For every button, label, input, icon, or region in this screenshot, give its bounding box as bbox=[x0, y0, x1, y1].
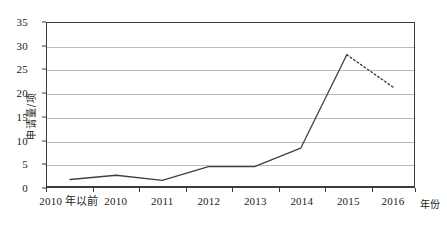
x-axis-title: 年份 bbox=[420, 196, 440, 211]
x-axis-tick-label: 2010 年以前 bbox=[39, 195, 98, 207]
series-line-dotted-forecast bbox=[347, 55, 393, 87]
y-axis-tick-label: 30 bbox=[4, 40, 28, 51]
x-axis-tick-label: 2011 bbox=[151, 195, 173, 207]
x-axis-tick-label: 2012 bbox=[197, 195, 220, 207]
x-axis-tick-mark bbox=[186, 188, 187, 192]
data-series-layer bbox=[47, 23, 416, 189]
x-axis-tick-label: 2013 bbox=[244, 195, 267, 207]
x-axis-tick-label: 2014 bbox=[290, 195, 313, 207]
x-axis-tick-mark bbox=[372, 188, 373, 192]
y-axis-tick-label: 10 bbox=[4, 135, 28, 146]
y-axis-tick-label: 25 bbox=[4, 64, 28, 75]
x-axis-tick-label: 2010 bbox=[104, 195, 127, 207]
plot-area bbox=[46, 22, 415, 188]
x-axis-tick-mark bbox=[232, 188, 233, 192]
y-axis-tick-label: 35 bbox=[4, 17, 28, 28]
x-axis-tick-label: 2015 bbox=[337, 195, 360, 207]
x-axis-tick-mark bbox=[279, 188, 280, 192]
x-axis-tick-mark bbox=[93, 188, 94, 192]
y-axis-tick-label: 15 bbox=[4, 111, 28, 122]
x-axis-tick-mark bbox=[139, 188, 140, 192]
line-chart: 申请量/项 35 30 25 20 15 10 5 0 2010 年以前 201… bbox=[0, 0, 447, 231]
y-axis-tick-label: 5 bbox=[4, 159, 28, 170]
series-line-solid bbox=[70, 55, 347, 181]
y-axis-tick-label: 20 bbox=[4, 88, 28, 99]
x-axis-tick-label: 2016 bbox=[382, 195, 405, 207]
x-axis-tick-mark bbox=[415, 188, 416, 192]
x-axis-tick-mark bbox=[46, 188, 47, 192]
x-axis-tick-mark bbox=[325, 188, 326, 192]
y-axis-tick-label: 0 bbox=[4, 183, 28, 194]
